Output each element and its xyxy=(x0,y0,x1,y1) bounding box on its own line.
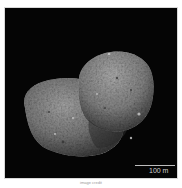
asteroid-head-lobe xyxy=(78,52,153,132)
scale-bar-label: 100 m xyxy=(149,167,168,175)
image-caption: image credit xyxy=(0,180,182,186)
asteroid-photo: 100 m xyxy=(4,7,178,179)
asteroid-illustration xyxy=(5,8,178,179)
scale-bar xyxy=(135,165,175,166)
